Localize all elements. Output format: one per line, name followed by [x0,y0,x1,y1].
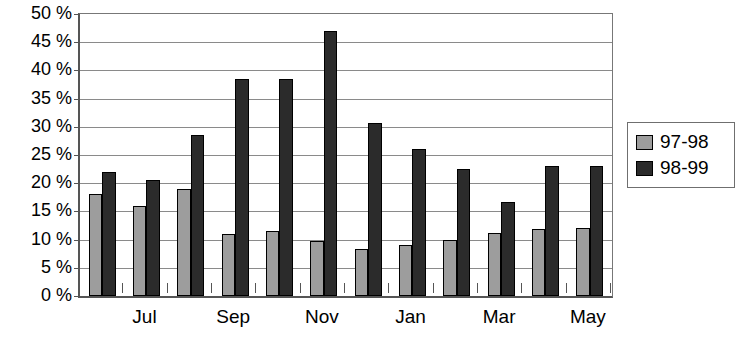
bar[interactable] [545,166,559,296]
x-axis-tickmark [300,283,301,293]
bar[interactable] [279,79,293,296]
bar[interactable] [89,194,103,296]
x-axis-tickmark [211,283,212,293]
y-axis-tick-label: 20 % [0,173,72,191]
x-axis-tickmark [255,283,256,293]
bar-group [523,14,567,296]
bar[interactable] [235,79,249,296]
x-axis-tick-label: Mar [483,305,516,329]
x-axis-tick-label: Jan [395,305,426,329]
bar-group [302,14,346,296]
y-axis-tickmark [74,296,80,297]
chart-legend: 97-98 98-99 [627,122,735,188]
bar[interactable] [443,240,457,296]
x-axis-tickmark [388,283,389,293]
y-axis-tick-label: 15 % [0,201,72,219]
bar[interactable] [310,241,324,296]
y-axis-tick-label: 0 % [0,286,72,304]
x-axis-tickmark [610,283,611,293]
x-axis-tickmark [78,283,79,293]
y-axis-tick-label: 50 % [0,4,72,22]
y-axis-tick-label: 30 % [0,117,72,135]
x-axis-tickmark [566,283,567,293]
bar-group [213,14,257,296]
y-axis-tick-label: 25 % [0,145,72,163]
bar-group [169,14,213,296]
y-axis-tick-label: 10 % [0,230,72,248]
y-axis-labels: 50 %45 %40 %35 %30 %25 %20 %15 %10 %5 %0… [0,0,72,300]
x-axis-labels: JulSepNovJanMarMay [78,305,610,333]
x-axis-tick-label: Sep [216,305,250,329]
bar[interactable] [146,180,160,296]
x-axis-tickmark [122,283,123,293]
legend-item-0[interactable]: 97-98 [636,129,728,155]
bar-group [80,14,124,296]
bar[interactable] [222,234,236,296]
bar[interactable] [102,172,116,296]
bar[interactable] [191,135,205,296]
x-axis-tickmark [433,283,434,293]
bar[interactable] [590,166,604,296]
x-axis-tick-label: May [570,305,606,329]
y-axis-tick-label: 40 % [0,60,72,78]
bar-group [568,14,612,296]
legend-label-0: 97-98 [660,132,709,152]
x-axis-tickmark [477,283,478,293]
x-axis-tickmark [167,283,168,293]
bar[interactable] [576,228,590,296]
x-axis-tick-label: Jul [132,305,156,329]
bar[interactable] [501,202,515,296]
bar-group [479,14,523,296]
bar-group [346,14,390,296]
legend-swatch-icon-1 [636,161,653,176]
bar[interactable] [368,123,382,296]
bar-group [390,14,434,296]
bar[interactable] [412,149,426,296]
legend-item-1[interactable]: 98-99 [636,155,728,181]
bar[interactable] [532,229,546,296]
y-axis-tick-label: 5 % [0,258,72,276]
bar[interactable] [488,233,502,296]
bar[interactable] [457,169,471,296]
legend-swatch-icon-0 [636,135,653,150]
x-axis-tickmark [521,283,522,293]
y-axis-tick-label: 45 % [0,32,72,50]
bar[interactable] [399,245,413,296]
bar[interactable] [355,249,369,296]
bar-group [435,14,479,296]
bar[interactable] [324,31,338,296]
bar-group [257,14,301,296]
bar[interactable] [266,231,280,296]
bar-group [124,14,168,296]
x-axis-tickmark [344,283,345,293]
bar[interactable] [177,189,191,296]
bars-layer [80,14,612,296]
plot-area [78,13,613,298]
x-axis-tick-label: Nov [305,305,339,329]
y-axis-tick-label: 35 % [0,89,72,107]
bar[interactable] [133,206,147,296]
legend-label-1: 98-99 [660,158,709,178]
